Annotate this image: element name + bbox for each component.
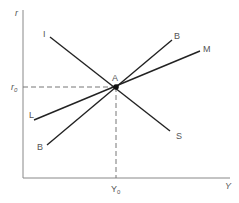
lm-end-label: M	[203, 44, 211, 54]
is-start-label: I	[43, 29, 46, 39]
equilibrium-point	[113, 84, 119, 90]
y-axis-label: r	[15, 8, 19, 18]
diagram-canvas: r r0 Y0 Y A I S L M B B	[0, 0, 239, 203]
bb-end-label: B	[174, 31, 180, 41]
r0-tick-label: r0	[11, 82, 18, 93]
x-axis-label: Y	[225, 181, 232, 191]
lm-start-label: L	[29, 110, 34, 120]
is-end-label: S	[176, 131, 182, 141]
y0-tick-label: Y0	[111, 184, 121, 195]
bb-curve	[47, 40, 172, 145]
equilibrium-label: A	[112, 73, 118, 83]
is-curve	[50, 37, 170, 131]
bb-start-label: B	[37, 142, 43, 152]
